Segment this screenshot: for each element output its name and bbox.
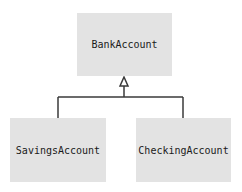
class-name: SavingsAccount <box>16 145 100 156</box>
generalization-arrowhead-icon <box>120 77 128 86</box>
class-name: BankAccount <box>91 39 157 50</box>
class-name: CheckingAccount <box>138 145 228 156</box>
class-box-savingsaccount: SavingsAccount <box>10 118 106 182</box>
class-box-bankaccount: BankAccount <box>77 13 172 76</box>
class-box-checkingaccount: CheckingAccount <box>136 118 231 182</box>
